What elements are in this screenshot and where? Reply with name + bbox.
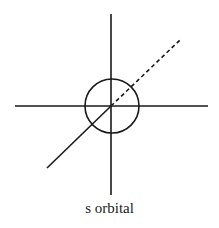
s-orbital-diagram <box>0 0 219 228</box>
depth-axis-back-dashed <box>111 40 180 106</box>
diagram-caption: s orbital <box>0 200 219 217</box>
depth-axis-front <box>47 106 111 168</box>
